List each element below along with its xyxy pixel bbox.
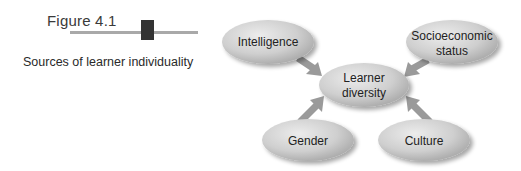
node-gender-label: Gender [288,134,328,148]
center-label-line2: diversity [342,86,386,100]
arrow-socioeconomic-to-center [404,60,428,77]
center-label-line1: Learner [343,71,384,85]
arrow-intelligence-to-center [298,58,322,76]
node-intelligence-label: Intelligence [238,35,299,49]
arrow-culture-to-center [406,96,430,122]
node-learner-diversity [319,63,409,107]
arrow-gender-to-center [300,96,324,122]
node-socioeconomic-label-line1: Socioeconomic [411,29,492,43]
learner-diversity-diagram: Intelligence Socioeconomic status Learne… [0,0,521,171]
node-socioeconomic-label-line2: status [436,44,468,58]
node-culture-label: Culture [405,134,444,148]
